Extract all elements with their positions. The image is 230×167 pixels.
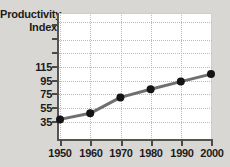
data-point-1990	[177, 78, 185, 86]
data-point-1960	[86, 109, 94, 117]
data-point-2000	[207, 70, 215, 78]
series-layer	[0, 0, 230, 167]
data-point-1980	[147, 85, 155, 93]
data-point-1950	[56, 115, 64, 123]
series-line	[60, 74, 211, 119]
productivity-index-chart: Productivity Index 115 95 75 55 35 1950 …	[0, 0, 230, 167]
data-point-1970	[116, 93, 124, 101]
